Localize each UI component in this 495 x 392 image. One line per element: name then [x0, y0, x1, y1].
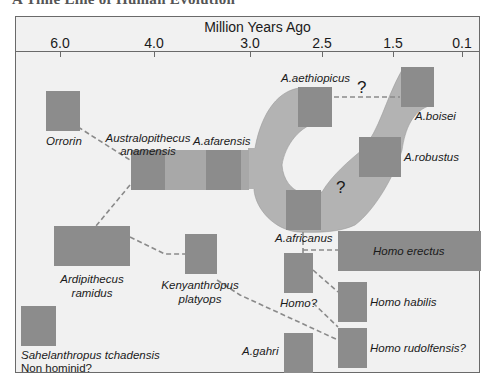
homo-habilis-label: Homo habilis: [370, 295, 436, 309]
anamensis-to-ardipithecus-line: [96, 185, 130, 226]
lineage-overlay: [0, 0, 495, 392]
ardipithecus-label-line2: ramidus: [42, 286, 142, 300]
homo-rudolfensis-box: [338, 328, 367, 368]
question-mark-aethiopicus-boisei: ?: [357, 78, 366, 98]
kenyanthropus-box: [185, 234, 217, 274]
orrorin-box: [46, 91, 80, 131]
boisei-label: A.boisei: [415, 109, 456, 123]
anamensis-label-line1: Australopithecus: [104, 131, 192, 145]
non-hominid-label: Non hominid?: [21, 361, 92, 375]
anamensis-label-line2: anamensis: [104, 144, 192, 158]
homo-question-box: [284, 253, 313, 293]
homo-question-label: Homo?: [280, 296, 317, 310]
homo-rudolfensis-label: Homo rudolfensis?: [370, 341, 466, 355]
afarensis-label: A.afarensis: [193, 134, 251, 148]
sahelanthropus-label: Sahelanthropus tchadensis: [21, 348, 160, 362]
gahri-box: [284, 333, 313, 373]
ardipithecus-to-kenyanthropus-line: [130, 237, 185, 254]
afarensis-box: [206, 150, 241, 190]
orrorin-label: Orrorin: [46, 134, 82, 148]
question-mark-robust-band: ?: [336, 178, 345, 198]
homo-habilis-box: [338, 282, 367, 322]
afarensis-tail-box: [241, 150, 249, 190]
boisei-box: [401, 67, 434, 107]
aethiopicus-box: [298, 87, 332, 127]
ardipithecus-label-line1: Ardipithecus: [42, 272, 142, 286]
kenyanthropus-label-line2: platyops: [153, 292, 247, 306]
sahelanthropus-box: [21, 306, 56, 346]
africanus-label: A.africanus: [275, 231, 333, 245]
kenyanthropus-label-line1: Kenyanthropus: [153, 278, 247, 292]
ardipithecus-box: [54, 226, 130, 266]
homo-erectus-label: Homo erectus: [373, 244, 445, 258]
homo-to-habilis-line: [313, 270, 338, 292]
gahri-label: A.gahri: [242, 344, 278, 358]
robustus-box: [359, 137, 401, 177]
aethiopicus-label: A.aethiopicus: [281, 71, 350, 85]
africanus-box: [286, 190, 321, 230]
robustus-label: A.robustus: [404, 150, 459, 164]
